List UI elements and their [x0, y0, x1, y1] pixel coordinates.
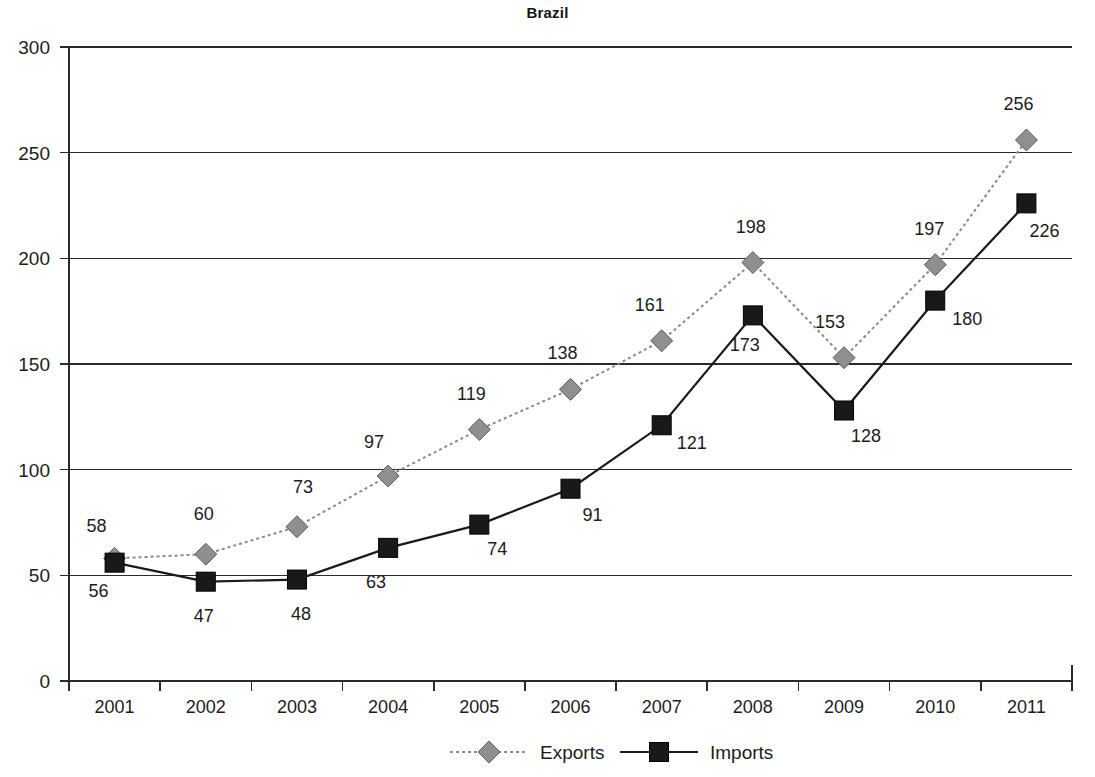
legend-marker-imports	[650, 743, 669, 762]
data-label-exports: 119	[457, 384, 486, 404]
data-label-exports: 58	[87, 516, 107, 536]
x-tick-label: 2011	[1007, 697, 1046, 717]
data-label-imports: 74	[487, 539, 507, 559]
legend-label-imports[interactable]: Imports	[710, 742, 773, 763]
data-label-imports: 121	[677, 433, 707, 453]
line-chart-plot: 050100150200250300 200120022003200420052…	[0, 0, 1095, 777]
y-tick-label: 100	[18, 460, 50, 481]
data-point-marker-imports[interactable]	[835, 401, 854, 420]
x-tick-label: 2009	[824, 697, 864, 717]
data-point-marker-imports[interactable]	[470, 515, 489, 534]
x-tick-label: 2003	[277, 697, 317, 717]
data-label-imports: 56	[89, 581, 109, 601]
data-label-exports: 97	[364, 432, 384, 452]
x-axis-ticks	[69, 681, 1072, 691]
legend-marker-exports	[478, 741, 500, 763]
data-point-marker-imports[interactable]	[379, 538, 398, 557]
y-tick-label: 250	[18, 143, 50, 164]
data-label-imports: 48	[291, 604, 311, 624]
x-tick-label: 2010	[915, 697, 955, 717]
x-tick-label: 2006	[550, 697, 590, 717]
data-point-labels: 5860739711913816119815319725656474863749…	[87, 94, 1060, 626]
y-tick-label: 0	[39, 671, 50, 692]
data-label-exports: 256	[1003, 94, 1033, 114]
data-label-imports: 226	[1029, 221, 1059, 241]
data-point-marker-imports[interactable]	[652, 416, 671, 435]
x-tick-label: 2007	[642, 697, 682, 717]
data-label-exports: 161	[635, 295, 665, 315]
data-label-exports: 197	[914, 219, 944, 239]
data-label-imports: 180	[952, 309, 982, 329]
x-axis-tick-labels: 2001200220032004200520062007200820092010…	[95, 697, 1046, 717]
data-label-exports: 198	[736, 217, 766, 237]
chart-container: Brazil 050100150200250300 20012002200320…	[0, 0, 1095, 777]
data-point-marker-imports[interactable]	[561, 479, 580, 498]
data-point-marker-exports[interactable]	[468, 419, 490, 441]
x-tick-label: 2001	[95, 697, 135, 717]
data-label-imports: 47	[194, 606, 214, 626]
y-tick-label: 150	[18, 354, 50, 375]
y-axis-tick-labels: 050100150200250300	[18, 37, 50, 692]
data-label-imports: 91	[582, 505, 602, 525]
y-tick-label: 200	[18, 248, 50, 269]
data-label-imports: 173	[730, 335, 760, 355]
data-label-exports: 73	[293, 477, 313, 497]
data-point-marker-exports[interactable]	[1015, 129, 1037, 151]
x-tick-label: 2004	[368, 697, 408, 717]
data-label-exports: 138	[547, 343, 577, 363]
y-tick-label: 50	[29, 565, 50, 586]
data-label-imports: 128	[851, 426, 881, 446]
x-tick-label: 2008	[733, 697, 773, 717]
y-tick-label: 300	[18, 37, 50, 58]
data-point-marker-imports[interactable]	[105, 553, 124, 572]
data-point-marker-exports[interactable]	[195, 543, 217, 565]
y-gridlines	[69, 47, 1072, 681]
data-point-marker-exports[interactable]	[286, 516, 308, 538]
data-point-marker-exports[interactable]	[377, 465, 399, 487]
data-label-exports: 153	[815, 312, 845, 332]
data-label-imports: 63	[366, 572, 386, 592]
chart-legend: ExportsImports	[450, 741, 773, 763]
data-point-marker-imports[interactable]	[926, 291, 945, 310]
data-point-marker-imports[interactable]	[743, 306, 762, 325]
x-tick-label: 2005	[459, 697, 499, 717]
data-point-marker-imports[interactable]	[196, 572, 215, 591]
data-point-marker-imports[interactable]	[287, 570, 306, 589]
data-label-exports: 60	[194, 504, 214, 524]
data-point-marker-imports[interactable]	[1017, 194, 1036, 213]
data-point-marker-exports[interactable]	[560, 378, 582, 400]
x-tick-label: 2002	[186, 697, 226, 717]
legend-label-exports[interactable]: Exports	[540, 742, 604, 763]
